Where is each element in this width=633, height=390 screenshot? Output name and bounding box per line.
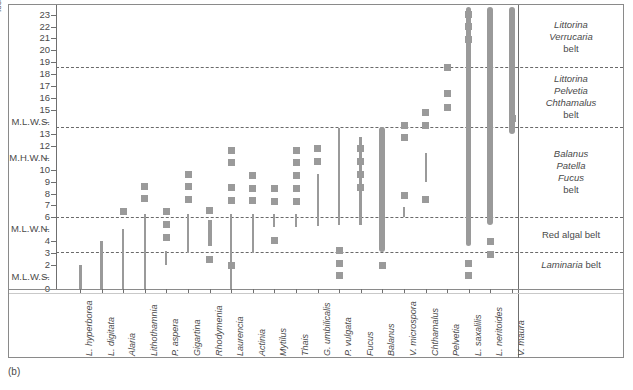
x-axis-species-label: P. vulgata bbox=[343, 317, 353, 356]
species-occurrence-square bbox=[465, 36, 472, 43]
y-tick-label-7: 7 bbox=[0, 200, 50, 210]
species-occurrence-square bbox=[401, 192, 408, 199]
species-occurrence-square bbox=[163, 208, 170, 215]
species-range-bar bbox=[425, 153, 427, 182]
species-occurrence-square bbox=[271, 198, 278, 205]
x-axis-species-label: Alaria bbox=[127, 333, 137, 356]
species-occurrence-square bbox=[293, 172, 300, 179]
y-tick-label-4: 4 bbox=[0, 236, 50, 246]
species-occurrence-square bbox=[293, 159, 300, 166]
x-axis-species-label: Balanus bbox=[386, 323, 396, 356]
species-occurrence-square bbox=[249, 172, 256, 179]
y-tick-mark: – bbox=[42, 272, 51, 282]
x-axis-species-label: P. aspera bbox=[170, 319, 180, 356]
belt-label-suffix: belt bbox=[519, 184, 623, 196]
x-tick-mark bbox=[296, 289, 297, 293]
species-occurrence-square bbox=[293, 147, 300, 154]
y-tick-label-21: 21 bbox=[0, 33, 50, 43]
x-tick-mark bbox=[123, 289, 124, 293]
species-occurrence-square bbox=[401, 122, 408, 129]
species-occurrence-square bbox=[422, 196, 429, 203]
belt-label: BalanusPatellaFucusbelt bbox=[519, 148, 623, 196]
species-occurrence-square bbox=[293, 185, 300, 192]
x-axis-species-label: Laurencia bbox=[235, 316, 245, 356]
species-occurrence-square bbox=[422, 109, 429, 116]
species-range-bar bbox=[317, 174, 319, 225]
species-occurrence-square bbox=[465, 272, 472, 279]
species-occurrence-square bbox=[444, 64, 451, 71]
y-tick-label-10: 10 bbox=[0, 165, 50, 175]
x-tick-mark bbox=[490, 289, 491, 293]
belt-genus-name: Patella bbox=[519, 160, 623, 172]
species-occurrence-square bbox=[314, 158, 321, 165]
y-tick-label-9: 9 bbox=[0, 177, 50, 187]
species-range-bar bbox=[403, 207, 405, 218]
species-occurrence-square bbox=[141, 195, 148, 202]
y-tick-label-3: 3 bbox=[0, 248, 50, 258]
plot-area bbox=[56, 5, 518, 289]
species-range-bar bbox=[230, 214, 232, 289]
species-occurrence-square bbox=[336, 247, 343, 254]
x-tick-mark bbox=[166, 289, 167, 293]
species-occurrence-square bbox=[163, 221, 170, 228]
x-tick-mark bbox=[318, 289, 319, 293]
x-tick-mark bbox=[188, 289, 189, 293]
belt-genus-name: Fucus bbox=[519, 172, 623, 184]
belt-label: LittorinaPelvetiaChthamalusbelt bbox=[519, 73, 623, 121]
y-tick-mark: – bbox=[42, 117, 51, 127]
y-tick-label-13: 13 bbox=[0, 129, 50, 139]
species-occurrence-square bbox=[487, 238, 494, 245]
species-occurrence-square bbox=[228, 184, 235, 191]
x-axis-band-bottom bbox=[9, 293, 623, 294]
species-occurrence-square bbox=[271, 185, 278, 192]
belt-label: Red algal belt bbox=[519, 229, 623, 241]
species-occurrence-square bbox=[379, 262, 386, 269]
x-axis-species-label: L. digitata bbox=[106, 317, 116, 356]
species-occurrence-square bbox=[465, 260, 472, 267]
species-occurrence-square bbox=[249, 197, 256, 204]
y-tick-label-20: 20 bbox=[0, 45, 50, 55]
belt-label-suffix: belt bbox=[519, 43, 623, 55]
species-range-bar bbox=[295, 214, 297, 227]
y-tick-label-23: 23 bbox=[0, 10, 50, 20]
x-tick-mark bbox=[447, 289, 448, 293]
x-axis-species-label: L. hyperborea bbox=[84, 300, 94, 356]
x-axis-species-label: Gigartina bbox=[192, 319, 202, 356]
figure-caption: (b) bbox=[8, 366, 20, 377]
species-occurrence-square bbox=[357, 145, 364, 152]
species-occurrence-square bbox=[141, 183, 148, 190]
x-tick-mark bbox=[404, 289, 405, 293]
x-axis-species-label: Chthamalus bbox=[430, 308, 440, 356]
x-tick-mark bbox=[512, 289, 513, 293]
belt-label: Laminaria belt bbox=[519, 259, 623, 271]
species-range-bar bbox=[79, 265, 82, 289]
belt-genus-name: Laminaria bbox=[541, 259, 583, 270]
x-tick-mark bbox=[210, 289, 211, 293]
y-tick-label-16: 16 bbox=[0, 93, 50, 103]
species-occurrence-square bbox=[271, 237, 278, 244]
x-axis-species-label: Actinia bbox=[257, 329, 267, 356]
species-occurrence-square bbox=[185, 196, 192, 203]
y-tick-label-12: 12 bbox=[0, 141, 50, 151]
species-occurrence-square bbox=[465, 11, 472, 18]
figure-root: feet 0M.L.W.S.–234M.L.W.N.–678910M.H.W.N… bbox=[0, 0, 633, 390]
x-tick-mark bbox=[361, 289, 362, 293]
species-range-bar bbox=[252, 214, 254, 253]
belt-label-suffix: belt bbox=[519, 109, 623, 121]
species-occurrence-square bbox=[314, 145, 321, 152]
x-tick-mark bbox=[253, 289, 254, 293]
species-range-bar bbox=[338, 128, 340, 225]
y-tick-label-6: 6 bbox=[0, 212, 50, 222]
x-axis-species-label: V. microspora bbox=[408, 301, 418, 356]
x-tick-mark bbox=[80, 289, 81, 293]
species-range-bar bbox=[379, 127, 385, 252]
y-tick-label-18: 18 bbox=[0, 69, 50, 79]
x-tick-mark bbox=[145, 289, 146, 293]
x-axis-species-label: V. maura bbox=[516, 320, 526, 356]
belt-label-suffix: Red algal belt bbox=[519, 229, 623, 241]
species-occurrence-square bbox=[465, 23, 472, 30]
x-axis-species-label: Mytilus bbox=[278, 328, 288, 356]
y-tick-mark: – bbox=[42, 224, 51, 234]
x-tick-mark bbox=[426, 289, 427, 293]
y-tick-label-22: 22 bbox=[0, 22, 50, 32]
